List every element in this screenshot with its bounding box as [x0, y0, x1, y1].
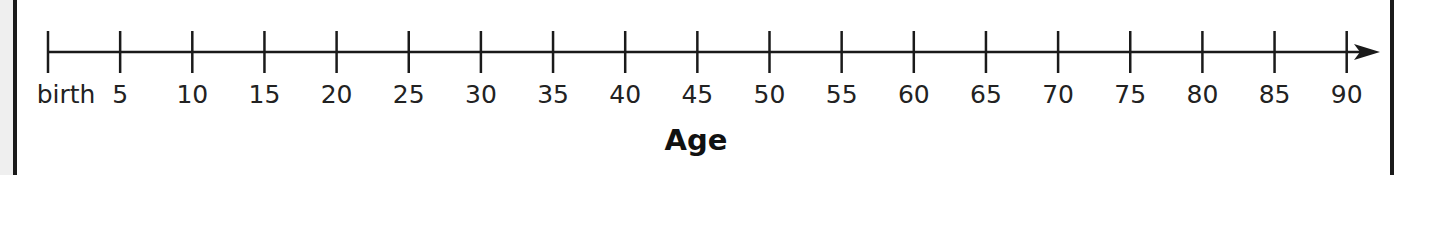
axis-title: Age — [665, 123, 728, 157]
tick-label: 30 — [465, 80, 497, 109]
tick-label: 65 — [970, 80, 1002, 109]
tick-label: 60 — [898, 80, 930, 109]
tick-label: 80 — [1186, 80, 1218, 109]
tick-label: 5 — [112, 80, 128, 109]
tick-label: 20 — [321, 80, 353, 109]
tick-label: 40 — [609, 80, 641, 109]
tick-label: 50 — [754, 80, 786, 109]
tick-label: birth — [37, 80, 96, 109]
tick-label: 35 — [537, 80, 569, 109]
tick-label: 55 — [826, 80, 858, 109]
tick-label: 15 — [249, 80, 281, 109]
tick-label: 10 — [176, 80, 208, 109]
tick-label: 75 — [1114, 80, 1146, 109]
tick-label: 90 — [1331, 80, 1363, 109]
tick-label: 45 — [681, 80, 713, 109]
tick-label: 25 — [393, 80, 425, 109]
tick-label: 70 — [1042, 80, 1074, 109]
tick-label: 85 — [1259, 80, 1291, 109]
